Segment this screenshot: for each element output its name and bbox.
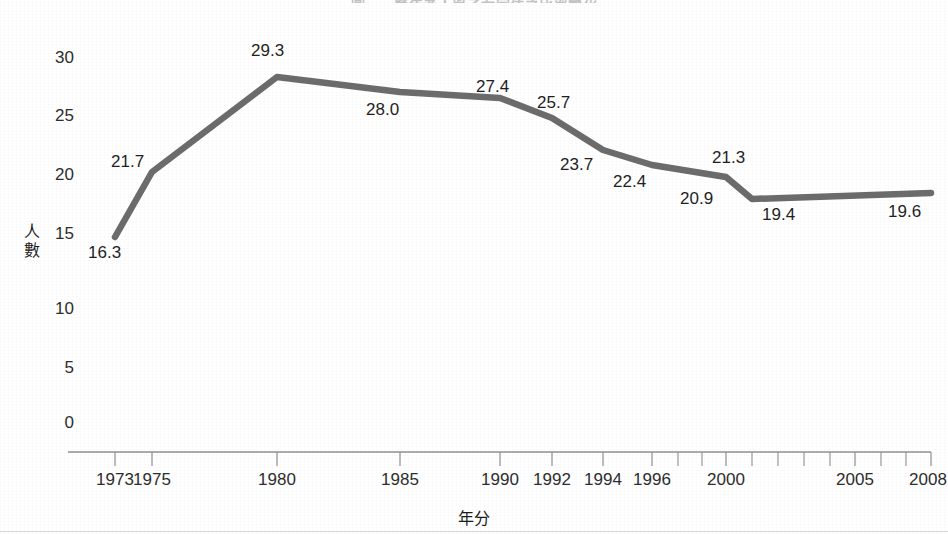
data-line-series — [115, 77, 931, 237]
x-tick-label-2008: 2008 — [898, 470, 948, 490]
value-label-1975: 21.7 — [111, 152, 144, 172]
x-tick-label-1980: 1980 — [247, 470, 307, 490]
x-tick-label-1996: 1996 — [622, 470, 682, 490]
plot-area — [0, 0, 948, 534]
value-label-1996: 22.4 — [613, 172, 646, 192]
x-tick-label-1985: 1985 — [370, 470, 430, 490]
x-tick-label-1990: 1990 — [470, 470, 530, 490]
x-axis-title: 年分 — [0, 505, 948, 529]
value-label-1973: 16.3 — [88, 243, 121, 263]
x-tick-label-2000: 2000 — [696, 470, 756, 490]
chart-container: 圖一 歷年老人與子女同住之比率變化 人數 30 25 20 15 10 5 0 — [0, 0, 948, 534]
value-label-2001: 19.4 — [762, 205, 795, 225]
value-label-2000: 21.3 — [712, 148, 745, 168]
value-label-1999: 20.9 — [680, 189, 713, 209]
value-label-1980: 29.3 — [251, 41, 284, 61]
page-bottom-rule — [0, 531, 948, 532]
value-label-2008: 19.6 — [888, 202, 921, 222]
value-label-1985: 28.0 — [366, 100, 399, 120]
x-axis-major-ticks — [115, 452, 931, 466]
value-label-1992: 25.7 — [537, 93, 570, 113]
x-tick-label-2005: 2005 — [825, 470, 885, 490]
x-tick-label-1975: 1975 — [122, 470, 182, 490]
x-axis-minor-ticks — [678, 452, 906, 466]
value-label-1994: 23.7 — [560, 155, 593, 175]
value-label-1990: 27.4 — [476, 77, 509, 97]
